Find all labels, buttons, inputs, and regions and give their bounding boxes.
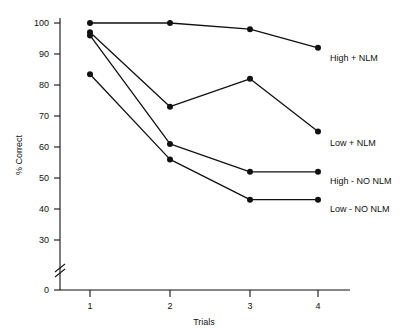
x-axis-ticks [90, 290, 318, 297]
series-layer [87, 20, 321, 203]
y-axis-title: % Correct [14, 135, 24, 176]
y-tick-label-60: 60 [39, 142, 49, 152]
data-point [87, 71, 93, 77]
data-point [167, 20, 173, 26]
chart-figure: 100 90 80 70 60 50 40 30 0 1 2 3 4 Trial… [0, 0, 405, 331]
data-point [315, 197, 321, 203]
x-tick-label-4: 4 [315, 301, 320, 311]
y-tick-label-80: 80 [39, 80, 49, 90]
data-point [167, 156, 173, 162]
data-point [87, 20, 93, 26]
data-point [315, 129, 321, 135]
series-label-low-no-nlm: Low - NO NLM [330, 204, 390, 214]
y-axis-ticks [54, 23, 60, 290]
x-tick-label-2: 2 [167, 301, 172, 311]
series-label-high-plus-nlm: High + NLM [330, 53, 378, 63]
data-point [315, 45, 321, 51]
data-point [167, 141, 173, 147]
y-tick-label-0: 0 [44, 285, 49, 295]
data-point [247, 76, 253, 82]
series-high-no-nlm [87, 32, 321, 174]
y-tick-label-30: 30 [39, 235, 49, 245]
series-label-low-plus-nlm: Low + NLM [330, 138, 376, 148]
y-tick-label-90: 90 [39, 49, 49, 59]
series-low-no-nlm [87, 71, 321, 203]
y-tick-label-100: 100 [34, 18, 49, 28]
series-label-high-no-nlm: High - NO NLM [330, 176, 392, 186]
y-tick-label-50: 50 [39, 173, 49, 183]
data-point [247, 197, 253, 203]
series-line-high-nlm [90, 23, 318, 48]
y-tick-label-40: 40 [39, 204, 49, 214]
data-point [247, 169, 253, 175]
series-line-low-no-nlm [90, 74, 318, 200]
data-point [87, 32, 93, 38]
data-point [167, 104, 173, 110]
y-tick-label-70: 70 [39, 111, 49, 121]
data-point [315, 169, 321, 175]
x-axis-title: Trials [193, 317, 215, 327]
series-low-nlm [87, 29, 321, 134]
x-tick-label-3: 3 [247, 301, 252, 311]
series-line-high-no-nlm [90, 35, 318, 171]
x-tick-label-1: 1 [87, 301, 92, 311]
series-high-nlm [87, 20, 321, 51]
line-chart-svg: 100 90 80 70 60 50 40 30 0 1 2 3 4 Trial… [0, 0, 405, 331]
data-point [247, 26, 253, 32]
